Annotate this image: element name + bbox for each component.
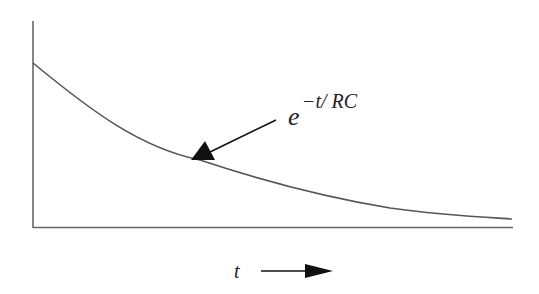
right-arrow-icon	[261, 264, 333, 278]
annotation-arrow-icon	[191, 120, 276, 160]
x-axis-label: t	[234, 260, 240, 282]
decay-curve	[33, 63, 512, 219]
curve-label-exponent: −t/ RC	[302, 90, 358, 112]
rc-decay-diagram: e −t/ RC t	[0, 0, 539, 294]
curve-label-base: e	[288, 102, 300, 131]
